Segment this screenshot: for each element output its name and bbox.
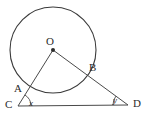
segment-c-to-d (18, 105, 128, 106)
geometry-canvas (0, 0, 148, 119)
angle-label-x: x (29, 99, 33, 108)
geometry-figure: O B A C D x y (0, 0, 148, 119)
angle-label-y: y (113, 96, 117, 105)
point-label-a: A (14, 83, 22, 94)
center-point-dot (51, 48, 55, 52)
segment-c-to-o (18, 50, 53, 106)
point-label-b: B (89, 62, 96, 73)
point-label-d: D (133, 98, 141, 109)
point-label-c: C (5, 99, 12, 110)
point-label-o: O (46, 36, 54, 47)
